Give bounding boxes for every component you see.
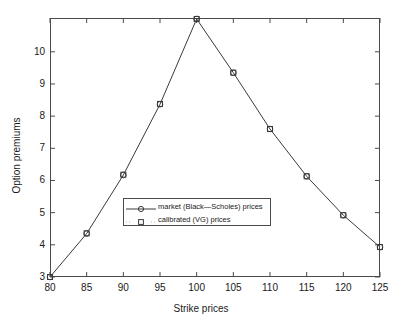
y-axis-title: Option premiums <box>11 96 22 216</box>
figure-canvas: 345678910 80859095100105110115120125 Str… <box>0 0 402 329</box>
x-tick-label: 105 <box>218 283 248 293</box>
chart-legend: market (Black—Scholes) prices calibrated… <box>123 198 271 226</box>
y-tick-label: 9 <box>23 79 45 89</box>
x-tick-label: 110 <box>255 283 285 293</box>
legend-square-marker-icon <box>124 214 158 226</box>
x-tick-label: 90 <box>108 283 138 293</box>
legend-label-calibrated: calibrated (VG) prices <box>158 216 231 224</box>
legend-item-calibrated: calibrated (VG) prices <box>124 213 270 226</box>
y-axis-ticks <box>50 52 380 277</box>
x-tick-label: 95 <box>145 283 175 293</box>
x-tick-label: 120 <box>328 283 358 293</box>
y-tick-label: 4 <box>23 240 45 250</box>
y-tick-label: 10 <box>23 47 45 57</box>
legend-label-market: market (Black—Scholes) prices <box>158 203 263 211</box>
x-tick-label: 115 <box>292 283 322 293</box>
x-tick-label: 100 <box>182 283 212 293</box>
legend-circle-marker-icon <box>124 201 158 213</box>
x-tick-label: 80 <box>35 283 65 293</box>
market-price-markers <box>47 16 383 280</box>
legend-item-market: market (Black—Scholes) prices <box>124 200 270 213</box>
x-tick-label: 125 <box>365 283 395 293</box>
calibrated-price-markers <box>48 16 383 279</box>
x-axis-title: Strike prices <box>0 303 402 314</box>
market-price-line <box>50 19 380 277</box>
chart-svg <box>0 0 402 329</box>
y-tick-label: 6 <box>23 175 45 185</box>
y-tick-label: 7 <box>23 143 45 153</box>
x-tick-label: 85 <box>72 283 102 293</box>
y-tick-label: 3 <box>23 272 45 282</box>
x-axis-ticks <box>50 18 380 277</box>
y-tick-label: 8 <box>23 111 45 121</box>
y-tick-label: 5 <box>23 208 45 218</box>
